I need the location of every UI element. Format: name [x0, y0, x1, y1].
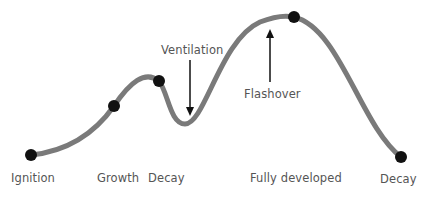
growth-point: [108, 100, 120, 112]
fully-developed-point: [288, 11, 300, 23]
stage-label-fully-developed: Fully developed: [250, 171, 342, 185]
stage-label-growth: Growth: [97, 171, 139, 185]
ignition-point: [25, 149, 37, 161]
fire-curve-diagram: [0, 0, 429, 198]
stage-label-decay-2: Decay: [380, 172, 417, 186]
ventilation-arrow: [186, 60, 194, 116]
stage-label-ignition: Ignition: [11, 171, 55, 185]
decay-point-1: [153, 75, 165, 87]
decay-point-2: [395, 151, 407, 163]
flashover-arrow: [266, 29, 274, 82]
fire-development-curve: [31, 16, 401, 157]
stage-label-decay-1: Decay: [148, 171, 185, 185]
ventilation-label: Ventilation: [161, 43, 223, 57]
flashover-label: Flashover: [244, 87, 301, 101]
